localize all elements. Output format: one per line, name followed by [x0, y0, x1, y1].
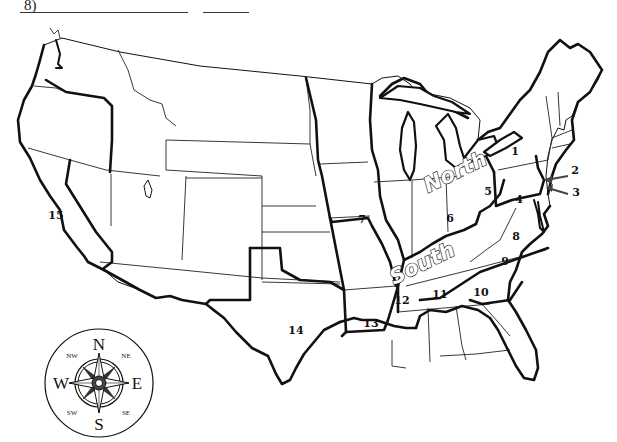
state-label-1: 1 [511, 145, 519, 158]
state-label-10: 10 [473, 286, 489, 299]
compass-se: SE [122, 409, 130, 417]
state-label-8: 8 [512, 230, 520, 243]
compass-s: S [94, 415, 103, 434]
compass-n: N [93, 335, 105, 354]
state-label-15: 15 [48, 209, 63, 222]
compass-w: W [53, 374, 70, 393]
state-label-12: 12 [394, 294, 409, 307]
us-map: 1 2 3 4 5 6 7 8 9 10 11 12 13 14 15 Nort… [0, 0, 617, 442]
state-label-9: 9 [501, 255, 509, 268]
state-label-14: 14 [288, 324, 304, 337]
state-label-3: 3 [572, 186, 580, 199]
state-label-7: 7 [358, 213, 366, 226]
state-label-13: 13 [363, 317, 378, 330]
state-label-4: 4 [515, 193, 523, 206]
state-label-2: 2 [571, 164, 579, 177]
compass-e: E [132, 374, 142, 393]
state-label-6: 6 [446, 212, 454, 225]
compass-ne: NE [121, 352, 130, 360]
compass-nw: NW [66, 352, 78, 360]
state-label-5: 5 [484, 185, 492, 198]
compass-sw: SW [67, 409, 78, 417]
compass-rose: N S E W NW NE SW SE [45, 329, 153, 437]
state-label-11: 11 [432, 288, 447, 301]
